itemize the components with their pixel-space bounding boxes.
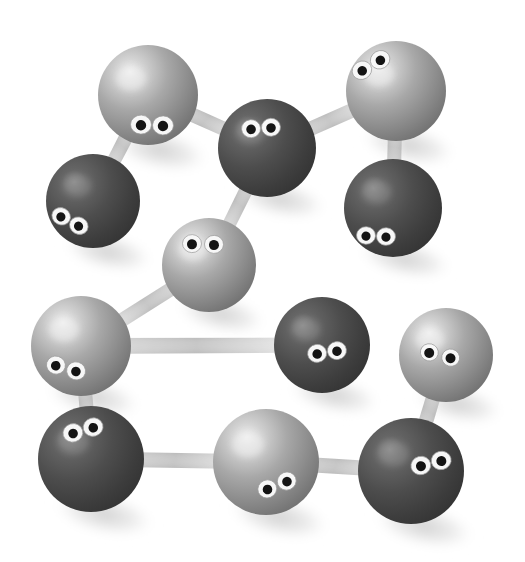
atom-11-sphere: [213, 409, 319, 515]
atom-10[interactable]: [399, 308, 493, 402]
atom-3[interactable]: [218, 99, 316, 197]
atom-3-sphere: [218, 99, 316, 197]
atom-5-specular-highlight: [362, 180, 391, 204]
atom-4[interactable]: [346, 41, 446, 141]
atom-8[interactable]: [274, 297, 370, 393]
atom-11-specular-highlight: [232, 432, 264, 457]
molecule-scene: [0, 0, 525, 562]
atom-7-sphere: [31, 296, 131, 396]
atom-4-sphere: [346, 41, 446, 141]
atom-12-sphere: [358, 418, 464, 524]
atom-2-specular-highlight: [63, 174, 91, 197]
atom-11[interactable]: [213, 409, 319, 515]
atom-12[interactable]: [358, 418, 464, 524]
atom-5[interactable]: [344, 159, 442, 257]
atom-6-sphere: [162, 218, 256, 312]
atom-7[interactable]: [31, 296, 131, 396]
atom-6[interactable]: [162, 218, 256, 312]
atom-12-specular-highlight: [377, 441, 409, 466]
atom-1-specular-highlight: [116, 67, 146, 91]
atom-8-sphere: [274, 297, 370, 393]
illustration-canvas: [0, 0, 525, 562]
atom-7-specular-highlight: [49, 318, 79, 342]
atom-1[interactable]: [98, 45, 198, 145]
atom-2-sphere: [46, 154, 140, 248]
atom-8-specular-highlight: [291, 318, 320, 341]
atom-2[interactable]: [46, 154, 140, 248]
atom-9[interactable]: [38, 406, 144, 512]
